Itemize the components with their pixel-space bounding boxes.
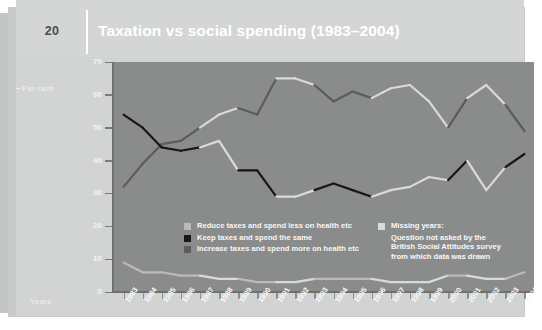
legend-swatch-icon [184,246,191,253]
legend-note-line: from which data was drawn [391,252,501,262]
series-segment [372,190,391,197]
y-tick-label: 50 [76,123,102,132]
series-segment [448,161,467,181]
series-segment [410,177,429,187]
series-segment [353,92,372,99]
x-axis-title: Years [30,297,51,306]
series-segment [391,85,410,88]
series-segment [257,170,276,196]
series-segment [372,279,391,282]
legend-note-line: British Social Attitudes survey [391,242,501,252]
y-tick [105,259,112,261]
y-tick [105,193,112,195]
series-legend: Reduce taxes and spend less on health et… [184,221,359,256]
legend-swatch-icon [378,223,385,230]
series-segment [295,78,314,85]
y-axis-title: Per cent [22,84,53,93]
series-segment [219,141,238,171]
series-segment [353,190,372,197]
legend-item: Increase taxes and spend more on health … [184,244,359,254]
legend-swatch-icon [184,235,191,242]
series-segment [162,272,181,275]
legend-item: Reduce taxes and spend less on health et… [184,221,359,231]
series-segment [429,177,448,180]
y-tick-label: 60 [76,90,102,99]
y-tick-label: 70 [76,57,102,66]
series-segment [505,272,524,279]
series-segment [334,184,353,191]
series-segment [124,262,143,272]
legend-item: Missing years: [378,221,501,231]
series-segment [505,154,524,167]
series-segment [162,141,181,144]
y-tick-label: 10 [76,254,102,263]
y-tick [105,127,112,129]
series-segment [410,85,429,101]
series-segment [391,187,410,190]
y-tick-label: 30 [76,188,102,197]
legend-label: Increase taxes and spend more on health … [197,244,359,254]
page-title: Taxation vs social spending (1983–2004) [98,22,400,40]
legend-label: Missing years: [391,221,444,231]
series-segment [200,115,219,128]
series-segment [448,98,467,128]
y-tick-label: 40 [76,156,102,165]
chart-card: 20 Taxation vs social spending (1983–200… [16,0,524,316]
legend-note-line: Question not asked by the [391,233,501,243]
series-segment [124,115,143,128]
y-tick [105,226,112,228]
series-segment [467,161,486,191]
series-segment [467,85,486,98]
series-segment [143,144,162,164]
series-segment [295,279,314,282]
y-tick [105,160,112,162]
series-segment [238,108,257,115]
y-tick [105,62,112,64]
series-segment [372,88,391,98]
chart-page: 20 Taxation vs social spending (1983–200… [0,0,542,330]
series-segment [162,147,181,150]
series-segment [200,141,219,148]
y-axis-line [112,62,114,293]
y-tick-label: 20 [76,221,102,230]
series-segment [505,105,524,131]
y-tick [105,292,112,294]
series-segment [314,85,333,101]
legend-label: Reduce taxes and spend less on health et… [197,221,352,231]
series-segment [314,184,333,191]
series-segment [219,108,238,115]
title-divider [86,10,88,54]
series-segment [143,128,162,148]
series-segment [429,101,448,127]
series-segment [200,276,219,279]
missing-years-legend: Missing years:Question not asked by theB… [378,221,501,261]
y-tick-label: 0 [76,287,102,296]
page-number: 20 [30,24,74,38]
legend-swatch-icon [184,223,191,230]
series-segment [257,78,276,114]
series-segment [238,279,257,282]
series-segment [486,167,505,190]
series-segment [295,190,314,197]
series-segment [429,276,448,283]
series-segment [181,128,200,141]
legend-item: Keep taxes and spend the same [184,233,359,243]
y-tick [105,94,112,96]
series-segment [486,85,505,105]
series-segment [334,92,353,102]
chart-header: 20 Taxation vs social spending (1983–200… [16,0,524,57]
legend-label: Keep taxes and spend the same [197,233,312,243]
series-segment [181,147,200,150]
series-segment [467,276,486,279]
series-segment [124,164,143,187]
